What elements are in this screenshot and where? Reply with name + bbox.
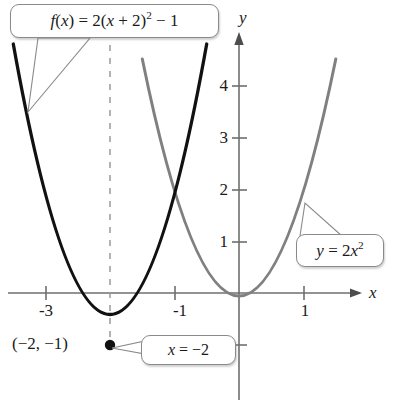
x-tick-label-1: 1	[285, 301, 325, 321]
x-axis	[8, 289, 362, 298]
vertex-coordinate-label: (−2, −1)	[12, 334, 68, 354]
fx-mid: ) = 2(	[69, 11, 107, 30]
callout-axis-of-symmetry: x = −2	[141, 335, 236, 365]
y2x2-var2: x	[350, 241, 358, 260]
fx-end: − 1	[152, 11, 179, 30]
xeq-value: = −2	[175, 341, 209, 358]
y-tick-label-1: 1	[206, 232, 228, 252]
y2x2-var: y	[316, 241, 324, 260]
callout-function-equation: f(x) = 2(x + 2)2 − 1	[10, 4, 219, 38]
fx-plus: + 2)	[114, 11, 146, 30]
y2x2-exponent: 2	[358, 239, 364, 251]
xeq-var: x	[168, 341, 175, 358]
y-tick-label-3: 3	[206, 128, 228, 148]
y-tick-label-2: 2	[206, 180, 228, 200]
y2x2-callout-pointer	[300, 203, 342, 236]
fx-var2: x	[106, 11, 114, 30]
x-tick-label-minus3: -3	[26, 301, 66, 321]
y-tick-label-4: 4	[206, 76, 228, 96]
fx-callout-pointer	[28, 38, 90, 112]
y-axis-label: y	[239, 8, 247, 28]
parabola-figure: y x -3 -1 1 1 2 3 4 (−2, −1) f(x) = 2(x …	[0, 0, 393, 401]
y2x2-eq: = 2	[324, 241, 351, 260]
x-axis-label: x	[369, 283, 377, 303]
x-tick-label-minus1: -1	[160, 301, 200, 321]
callout-parent-function: y = 2x2	[296, 234, 384, 267]
fx-var: x	[61, 11, 69, 30]
